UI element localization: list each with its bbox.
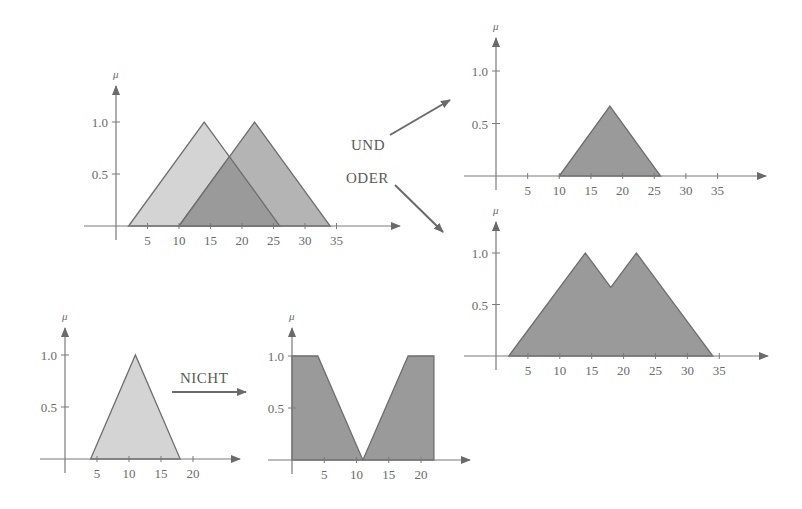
x-tick-label: 25 bbox=[648, 183, 661, 198]
x-tick-label: 15 bbox=[155, 466, 168, 481]
y-tick-label: 0.5 bbox=[472, 117, 488, 132]
membership-area bbox=[559, 106, 660, 176]
membership-area bbox=[292, 356, 363, 460]
x-tick-label: 30 bbox=[299, 233, 312, 248]
y-tick-label: 0.5 bbox=[41, 400, 57, 415]
x-tick-label: 10 bbox=[553, 183, 566, 198]
x-tick-label: 10 bbox=[553, 363, 566, 378]
x-tick-label: 10 bbox=[173, 233, 186, 248]
x-tick-label: 5 bbox=[525, 363, 532, 378]
x-tick-label: 20 bbox=[236, 233, 249, 248]
x-tick-label: 10 bbox=[123, 466, 136, 481]
chart-oder-result: μ51015202530350.51.0 bbox=[464, 204, 768, 378]
x-tick-label: 5 bbox=[94, 466, 101, 481]
diagram-canvas: μ51015202530350.51.0μ51015202530350.51.0… bbox=[0, 0, 802, 509]
y-tick-label: 1.0 bbox=[92, 115, 108, 130]
oder-label: ODER bbox=[346, 170, 389, 187]
oder-arrow bbox=[395, 185, 443, 232]
chart-nicht-input: μ51015200.51.0 bbox=[40, 310, 240, 481]
x-tick-label: 30 bbox=[679, 183, 692, 198]
x-tick-label: 35 bbox=[711, 183, 724, 198]
mu-axis-label: μ bbox=[112, 68, 119, 80]
membership-area bbox=[509, 253, 713, 356]
y-tick-label: 1.0 bbox=[472, 64, 488, 79]
x-tick-label: 20 bbox=[415, 467, 428, 482]
chart-input-sets: μ51015202530350.51.0 bbox=[84, 68, 400, 248]
und-label: UND bbox=[351, 137, 385, 154]
chart-nicht-result: μ51015200.51.0 bbox=[268, 310, 470, 482]
y-tick-label: 0.5 bbox=[472, 298, 488, 313]
x-tick-label: 5 bbox=[524, 183, 531, 198]
nicht-label: NICHT bbox=[180, 370, 228, 387]
und-arrow bbox=[390, 100, 450, 135]
x-tick-label: 15 bbox=[204, 233, 217, 248]
membership-area bbox=[91, 355, 181, 459]
mu-axis-label: μ bbox=[61, 310, 68, 322]
x-tick-label: 25 bbox=[267, 233, 280, 248]
y-tick-label: 1.0 bbox=[472, 246, 488, 261]
x-tick-label: 25 bbox=[649, 363, 662, 378]
x-tick-label: 15 bbox=[585, 363, 598, 378]
y-tick-label: 0.5 bbox=[268, 401, 284, 416]
mu-axis-label: μ bbox=[492, 204, 499, 216]
chart-und-result: μ51015202530350.51.0 bbox=[464, 20, 766, 198]
x-tick-label: 20 bbox=[187, 466, 200, 481]
x-tick-label: 35 bbox=[330, 233, 343, 248]
x-tick-label: 10 bbox=[350, 467, 363, 482]
y-tick-label: 1.0 bbox=[41, 348, 57, 363]
mu-axis-label: μ bbox=[288, 310, 295, 322]
mu-axis-label: μ bbox=[492, 20, 499, 32]
x-tick-label: 15 bbox=[382, 467, 395, 482]
membership-area bbox=[363, 356, 434, 460]
x-tick-label: 20 bbox=[616, 183, 629, 198]
x-tick-label: 30 bbox=[681, 363, 694, 378]
y-tick-label: 0.5 bbox=[92, 167, 108, 182]
y-tick-label: 1.0 bbox=[268, 349, 284, 364]
fuzzy-set-operations-diagram: μ51015202530350.51.0μ51015202530350.51.0… bbox=[0, 0, 802, 509]
x-tick-label: 20 bbox=[617, 363, 630, 378]
x-tick-label: 15 bbox=[584, 183, 597, 198]
x-tick-label: 5 bbox=[321, 467, 328, 482]
x-tick-label: 35 bbox=[713, 363, 726, 378]
x-tick-label: 5 bbox=[144, 233, 151, 248]
